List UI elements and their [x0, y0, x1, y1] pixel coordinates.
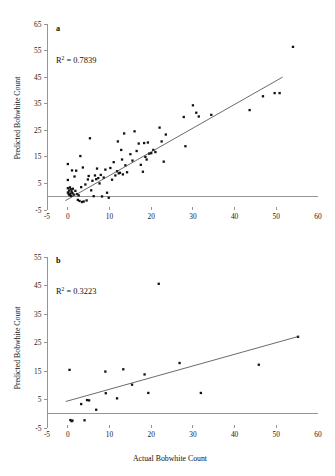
data-point [69, 192, 71, 194]
panel-a-data-points [67, 46, 294, 203]
x-tick-label: -5 [44, 212, 50, 221]
y-tick-label: 5 [38, 395, 42, 404]
panel-a-svg: -55152535455565 -50102030405060 a R2 = 0… [0, 0, 335, 232]
y-tick-label: 55 [34, 46, 42, 55]
x-tick-label: 0 [66, 212, 70, 221]
data-point [122, 368, 124, 370]
data-point [195, 112, 197, 114]
data-point [163, 160, 165, 162]
x-tick-label: 20 [148, 212, 156, 221]
data-point [131, 159, 133, 161]
x-tick-label: 20 [148, 430, 156, 439]
data-point [88, 175, 90, 177]
data-point [98, 182, 100, 184]
x-tick-label: 0 [66, 430, 70, 439]
data-point [85, 199, 87, 201]
panel-b-yaxis: -551525354555 [34, 253, 47, 433]
data-point [100, 174, 102, 176]
data-point [210, 114, 212, 116]
data-point [89, 137, 91, 139]
y-tick-label: 45 [34, 73, 42, 82]
data-point [74, 190, 76, 192]
data-point [104, 168, 106, 170]
data-point [119, 172, 121, 174]
panel-b-xaxis: -50102030405060 [44, 414, 322, 439]
data-point [78, 194, 80, 196]
panel-a-regression-line [65, 77, 282, 201]
x-tick-label: 10 [106, 212, 114, 221]
x-tick-label: 60 [314, 212, 322, 221]
data-point [88, 399, 90, 401]
data-point [67, 179, 69, 181]
y-tick-label: -5 [35, 206, 41, 215]
data-point [80, 403, 82, 405]
y-tick-label: 15 [34, 152, 42, 161]
figure-container: -55152535455565 -50102030405060 a R2 = 0… [0, 0, 335, 476]
data-point [111, 179, 113, 181]
data-point [123, 132, 125, 134]
panel-b-svg: -551525354555 -50102030405060 b R2 = 0.3… [0, 232, 335, 476]
data-point [200, 392, 202, 394]
panel-label-b: b [56, 256, 61, 265]
data-point [94, 174, 96, 176]
data-point [192, 104, 194, 106]
data-point [95, 178, 97, 180]
data-point [101, 195, 103, 197]
y-tick-label: 25 [34, 338, 42, 347]
x-tick-label: 40 [231, 212, 239, 221]
x-axis-title: Actual Bobwhite Count [133, 454, 208, 463]
data-point [96, 167, 98, 169]
data-point [80, 186, 82, 188]
data-point [83, 200, 85, 202]
data-point [126, 171, 128, 173]
data-point [93, 195, 95, 197]
x-tick-label: 40 [231, 430, 239, 439]
data-point [131, 384, 133, 386]
data-point [72, 188, 74, 190]
panel-b-y-axis-title: Predicted Bobwhite Count [13, 306, 22, 390]
data-point [183, 116, 185, 118]
data-point [142, 171, 144, 173]
x-tick-label: 30 [189, 430, 197, 439]
data-point [82, 166, 84, 168]
data-point [122, 173, 124, 175]
data-point [116, 397, 118, 399]
data-point [121, 158, 123, 160]
x-tick-label: 50 [273, 212, 281, 221]
data-point [90, 189, 92, 191]
data-point [143, 373, 145, 375]
data-point [91, 180, 93, 182]
data-point [87, 178, 89, 180]
data-point [106, 192, 108, 194]
scatter-panel-b: -551525354555 -50102030405060 b R2 = 0.3… [0, 232, 335, 476]
scatter-panel-a: -55152535455565 -50102030405060 a R2 = 0… [0, 0, 335, 232]
data-point [79, 155, 81, 157]
y-tick-label: 25 [34, 126, 42, 135]
y-tick-label: 35 [34, 99, 42, 108]
x-tick-label: -5 [44, 430, 50, 439]
panel-b-r-squared-label: R2 = 0.3223 [56, 286, 96, 296]
data-point [138, 142, 140, 144]
data-point [158, 126, 160, 128]
x-tick-label: 10 [106, 430, 114, 439]
data-point [184, 145, 186, 147]
data-point [71, 169, 73, 171]
data-point [147, 141, 149, 143]
data-point [198, 115, 200, 117]
data-point [78, 200, 80, 202]
data-point [71, 419, 73, 421]
x-tick-label: 50 [273, 430, 281, 439]
data-point [133, 130, 135, 132]
data-point [105, 392, 107, 394]
data-point [147, 392, 149, 394]
data-point [68, 369, 70, 371]
y-tick-label: 65 [34, 20, 42, 29]
x-tick-label: 30 [189, 212, 197, 221]
data-point [86, 399, 88, 401]
y-tick-label: 15 [34, 367, 42, 376]
y-tick-label: 45 [34, 281, 42, 290]
data-point [258, 364, 260, 366]
data-point [129, 153, 131, 155]
data-point [273, 92, 275, 94]
panel-a-r-squared-label: R2 = 0.7839 [56, 55, 96, 65]
